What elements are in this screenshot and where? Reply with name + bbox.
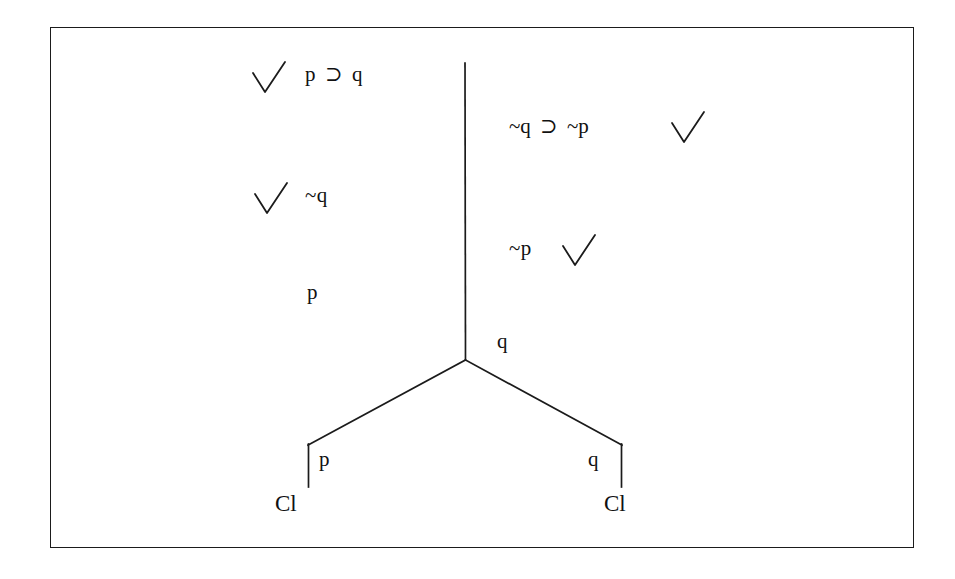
closure-marker-right: Cl	[604, 492, 626, 515]
tableau-tree-lines	[0, 0, 955, 579]
check-mark-icon	[669, 110, 707, 146]
tableau-canvas: p⊃q ~q⊃~p ~q ~p p q p q Cl Cl	[0, 0, 955, 579]
formula-consequent: q	[352, 62, 363, 86]
branch-right-q: q	[588, 449, 599, 470]
premise-p-horseshoe-q: p⊃q	[305, 64, 363, 85]
closure-marker-left: Cl	[275, 492, 297, 515]
trunk-line	[465, 63, 466, 360]
left-branch-line	[308, 360, 466, 445]
branch-left-p: p	[319, 449, 330, 470]
check-mark-icon	[252, 181, 290, 217]
horseshoe-operator: ⊃	[316, 62, 352, 86]
formula-antecedent: ~q	[509, 114, 531, 138]
right-branch-line	[466, 360, 623, 445]
check-mark-icon	[250, 60, 288, 96]
check-mark-icon	[560, 233, 598, 269]
derived-not-p: ~p	[509, 238, 532, 259]
premise-not-q: ~q	[305, 185, 328, 206]
formula-antecedent: p	[305, 62, 316, 86]
premise-notq-horseshoe-notp: ~q⊃~p	[509, 116, 589, 137]
horseshoe-operator: ⊃	[531, 114, 567, 138]
formula-consequent: ~p	[567, 114, 589, 138]
derived-q: q	[497, 331, 508, 352]
derived-p: p	[307, 282, 318, 303]
